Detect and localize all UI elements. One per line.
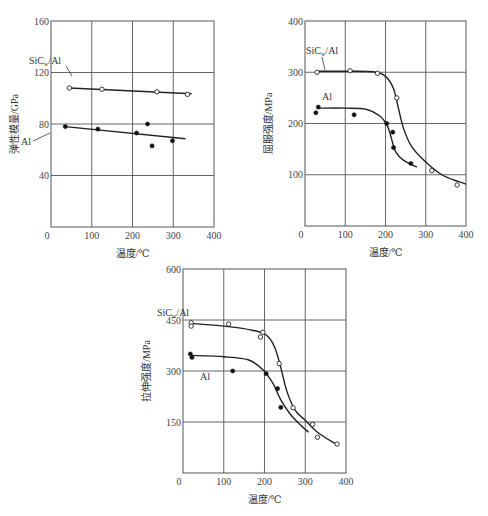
series-label-sicw-al: SiCw/Al xyxy=(29,55,61,67)
series-al xyxy=(314,105,417,167)
x-tick-label: 200 xyxy=(125,230,140,241)
filled-circle-marker xyxy=(409,161,413,165)
filled-circle-marker xyxy=(134,131,138,135)
open-circle-marker xyxy=(185,92,189,96)
x-axis-title: 温度/℃ xyxy=(248,493,282,505)
y-tick-label: 150 xyxy=(166,417,181,428)
x-tick-label: 400 xyxy=(207,230,222,241)
series-label-al: Al xyxy=(200,371,210,382)
yield-strength-chart: 0100200300400100200300400温度/℃屈服强度/MPaSiC… xyxy=(262,16,474,259)
x-tick-label: 100 xyxy=(338,229,353,240)
y-tick-label: 80 xyxy=(39,119,49,130)
filled-circle-marker xyxy=(316,105,320,109)
elastic-modulus-chart: 01002003004004080120160温度/℃弹性模量/GPaSiCw/… xyxy=(8,16,222,260)
y-tick-label: 300 xyxy=(288,67,303,78)
figure-canvas: 01002003004004080120160温度/℃弹性模量/GPaSiCw/… xyxy=(0,0,488,516)
label-leader-line xyxy=(33,133,50,141)
x-tick-label: 100 xyxy=(216,476,231,487)
y-tick-label: 400 xyxy=(288,16,303,27)
x-tick-label: 0 xyxy=(45,230,50,241)
open-circle-marker xyxy=(395,96,399,100)
y-axis-title: 屈服强度/MPa xyxy=(262,92,274,154)
x-tick-label: 200 xyxy=(257,476,272,487)
y-axis-title: 弹性模量/GPa xyxy=(8,93,20,154)
open-circle-marker xyxy=(189,324,193,328)
filled-circle-marker xyxy=(264,372,268,376)
x-tick-label: 0 xyxy=(177,476,182,487)
y-tick-label: 40 xyxy=(39,170,49,181)
x-tick-label: 400 xyxy=(339,476,354,487)
open-circle-marker xyxy=(291,406,295,410)
series-al xyxy=(188,352,308,432)
open-circle-marker xyxy=(226,322,230,326)
open-circle-marker xyxy=(261,330,265,334)
open-circle-marker xyxy=(335,442,339,446)
x-tick-label: 400 xyxy=(459,229,474,240)
filled-circle-marker xyxy=(314,111,318,115)
filled-circle-marker xyxy=(275,387,279,391)
x-tick-labels: 0100200300400 xyxy=(45,230,222,241)
filled-circle-marker xyxy=(385,121,389,125)
open-circle-marker xyxy=(430,168,434,172)
y-tick-label: 160 xyxy=(34,16,49,27)
series-al xyxy=(63,122,185,148)
series-sicw-al xyxy=(315,69,466,188)
y-tick-label: 200 xyxy=(288,118,303,129)
fit-line xyxy=(65,127,185,139)
y-tick-label: 100 xyxy=(288,169,303,180)
x-tick-label: 100 xyxy=(84,230,99,241)
y-tick-label: 120 xyxy=(34,67,49,78)
open-circle-marker xyxy=(67,86,71,90)
x-tick-label: 300 xyxy=(298,476,313,487)
series-label-sicw-al: SiCw/Al xyxy=(157,307,189,319)
filled-circle-marker xyxy=(145,122,149,126)
series-label-sicw-al: SiCw/Al xyxy=(306,45,338,57)
filled-circle-marker xyxy=(231,369,235,373)
open-circle-marker xyxy=(315,435,319,439)
open-circle-marker xyxy=(455,183,459,187)
filled-circle-marker xyxy=(96,127,100,131)
x-axis-title: 温度/℃ xyxy=(116,247,150,259)
tensile-strength-chart: 0100200300400150300450600温度/℃拉伸强度/MPaSiC… xyxy=(140,264,354,506)
trend-curve xyxy=(191,355,308,432)
open-circle-marker xyxy=(155,90,159,94)
filled-circle-marker xyxy=(352,113,356,117)
label-leader-line xyxy=(322,57,325,70)
x-tick-label: 200 xyxy=(378,229,393,240)
x-axis-title: 温度/℃ xyxy=(369,246,403,258)
filled-circle-marker xyxy=(190,355,194,359)
open-circle-marker xyxy=(348,69,352,73)
filled-circle-marker xyxy=(279,405,283,409)
y-tick-label: 300 xyxy=(166,366,181,377)
trend-curve xyxy=(317,108,417,167)
open-circle-marker xyxy=(100,87,104,91)
trend-curve xyxy=(317,71,466,184)
x-tick-label: 300 xyxy=(166,230,181,241)
open-circle-marker xyxy=(375,71,379,75)
open-circle-marker xyxy=(310,422,314,426)
filled-circle-marker xyxy=(63,124,67,128)
series-label-al: Al xyxy=(322,91,332,102)
y-tick-label: 600 xyxy=(166,264,181,275)
x-tick-label: 300 xyxy=(418,229,433,240)
x-tick-labels: 0100200300400 xyxy=(177,476,354,487)
x-tick-labels: 0100200300400 xyxy=(299,229,474,240)
open-circle-marker xyxy=(258,335,262,339)
y-tick-labels: 150300450600 xyxy=(166,264,181,428)
filled-circle-marker xyxy=(150,144,154,148)
open-circle-marker xyxy=(315,70,319,74)
label-leader-line xyxy=(66,66,72,76)
filled-circle-marker xyxy=(170,139,174,143)
filled-circle-marker xyxy=(391,130,395,134)
y-axis-title: 拉伸强度/MPa xyxy=(140,340,152,402)
x-tick-label: 0 xyxy=(299,229,304,240)
open-circle-marker xyxy=(277,361,281,365)
filled-circle-marker xyxy=(391,145,395,149)
y-tick-labels: 100200300400 xyxy=(288,16,303,181)
series-label-al: Al xyxy=(21,136,31,147)
y-tick-labels: 4080120160 xyxy=(34,16,49,182)
grid xyxy=(51,21,214,227)
